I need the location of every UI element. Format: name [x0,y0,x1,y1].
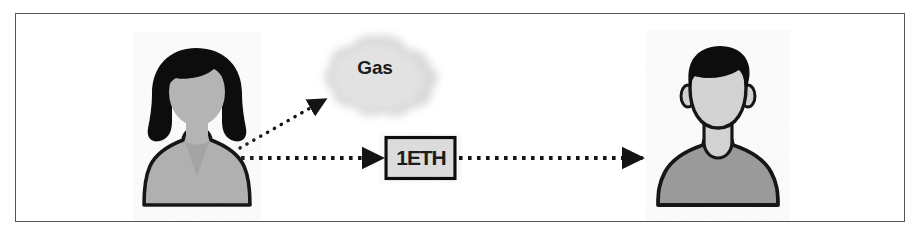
diagram-artwork [0,0,921,232]
receiver-avatar[interactable] [658,46,778,205]
diagram-canvas: Gas 1ETH [0,0,921,232]
eth-amount-label: 1ETH [387,146,455,170]
sender-avatar[interactable] [144,48,250,205]
arrow-sender-to-gas [240,99,326,148]
gas-label: Gas [325,57,425,79]
